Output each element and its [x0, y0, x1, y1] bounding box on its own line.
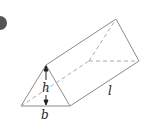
hidden-edges	[21, 19, 139, 106]
hidden-back-left-edge	[89, 19, 116, 61]
triangular-prism-diagram: h b l	[0, 0, 145, 132]
badge-circle-icon	[0, 16, 7, 30]
base-label: b	[41, 108, 49, 122]
visible-edges	[21, 19, 139, 106]
back-right-edge	[116, 19, 139, 61]
bottom-right-edge	[70, 61, 139, 106]
length-label: l	[108, 84, 112, 98]
height-label: h	[42, 81, 50, 95]
top-edge	[46, 19, 116, 65]
hidden-bottom-left-edge	[21, 61, 89, 106]
